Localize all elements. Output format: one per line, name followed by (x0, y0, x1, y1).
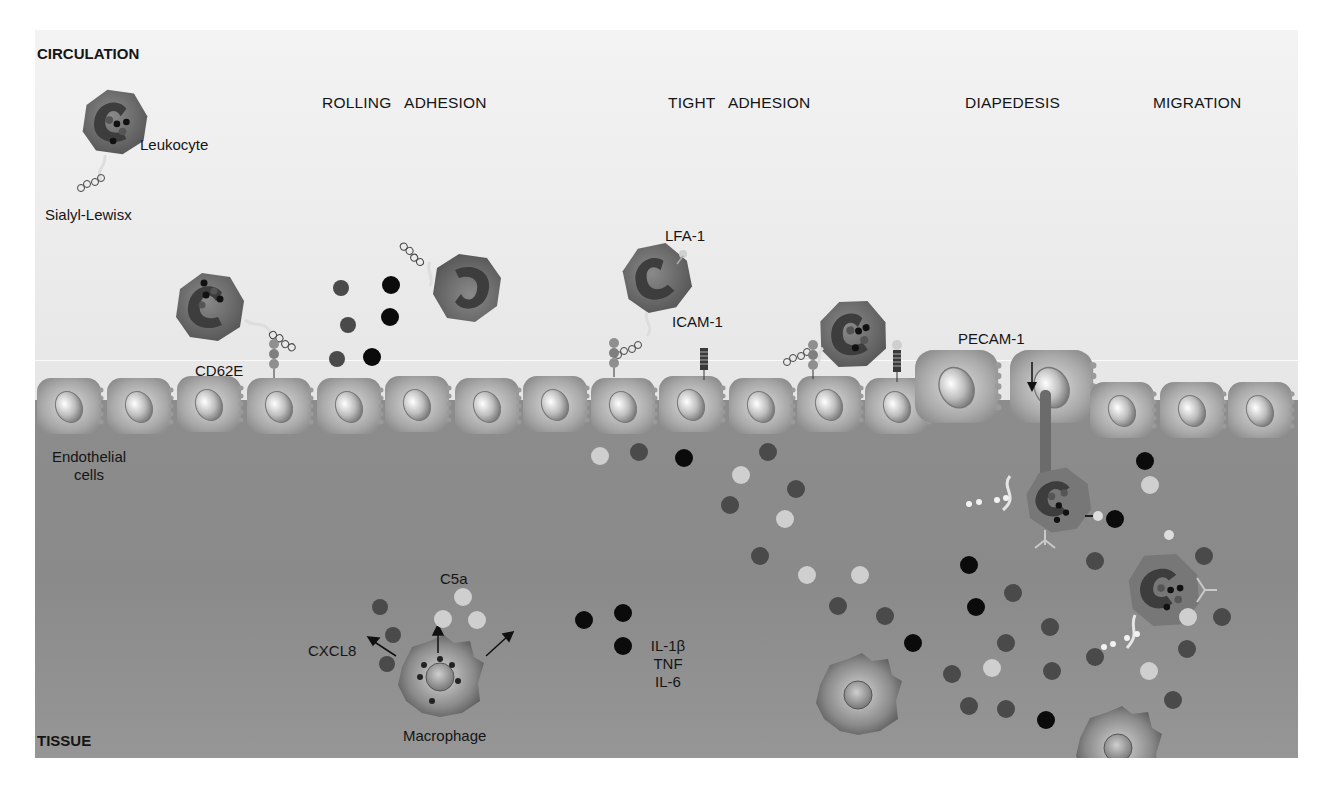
circulation-label: CIRCULATION (37, 45, 139, 62)
cxcl8-label: CXCL8 (308, 642, 356, 659)
macrophage-label: Macrophage (403, 727, 486, 744)
cd62e-label: CD62E (195, 362, 243, 379)
icam1-label: ICAM-1 (672, 313, 723, 330)
stage-tight-adhesion: TIGHT ADHESION (668, 94, 810, 112)
c5a-label: C5a (440, 570, 468, 587)
endothelial-label-line1: Endothelial (41, 448, 137, 466)
pecam1-label: PECAM-1 (958, 330, 1025, 347)
cytokines-label: IL-1β TNF IL-6 (640, 637, 696, 691)
stage-diapedesis: DIAPEDESIS (965, 94, 1060, 112)
leukocyte-extravasation-diagram: CIRCULATION TISSUE ROLLING ADHESION TIGH… (35, 30, 1298, 758)
stage-migration: MIGRATION (1153, 94, 1241, 112)
leukocyte-label: Leukocyte (140, 136, 208, 153)
il1b-label: IL-1β (640, 637, 696, 655)
endothelial-cells-label: Endothelial cells (41, 448, 137, 484)
lfa1-label: LFA-1 (665, 227, 705, 244)
stage-rolling-adhesion: ROLLING ADHESION (322, 94, 487, 112)
tnf-label: TNF (640, 655, 696, 673)
tissue-label: TISSUE (37, 732, 91, 749)
endothelial-label-line2: cells (41, 466, 137, 484)
sialyl-lewis-label: Sialyl-Lewisx (45, 206, 132, 223)
il6-label: IL-6 (640, 673, 696, 691)
